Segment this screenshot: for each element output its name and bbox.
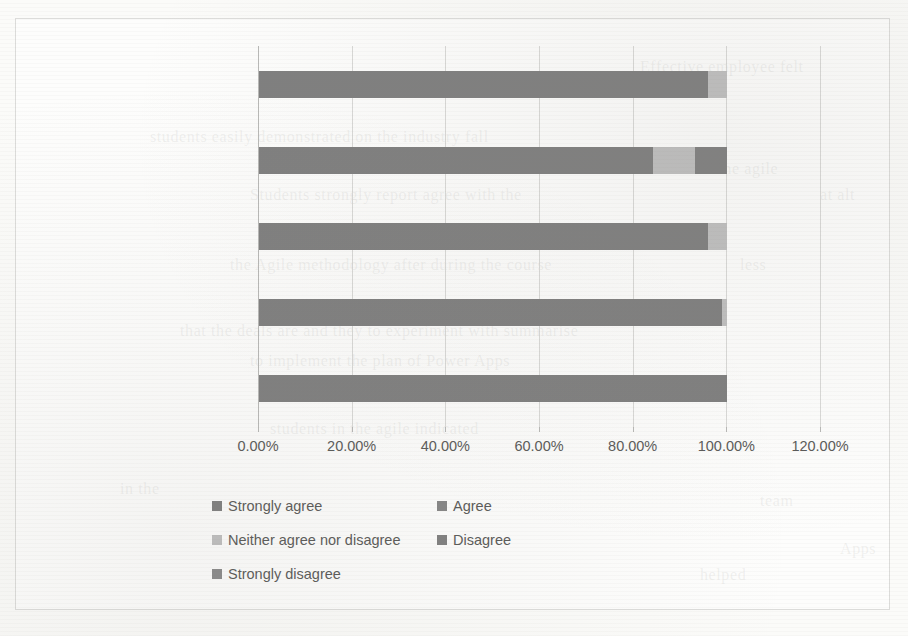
bar-segment[interactable] [259, 375, 727, 402]
legend-swatch-icon [212, 569, 222, 579]
bar-row[interactable] [259, 223, 727, 250]
bar-segment[interactable] [708, 223, 728, 250]
axis-tick [726, 427, 727, 432]
tick-label: 0.00% [237, 438, 278, 454]
legend-row: Strongly disagree [212, 557, 712, 591]
tick-label: 40.00% [421, 438, 470, 454]
legend-label: Disagree [453, 533, 511, 548]
bar-segment[interactable] [708, 71, 728, 98]
legend-item[interactable]: Disagree [437, 533, 511, 548]
plot-area [258, 46, 820, 427]
axis-tick [352, 427, 353, 432]
chart-frame: Effective employeeHarder to learnPower A… [15, 18, 890, 610]
tick-label: 120.00% [791, 438, 848, 454]
axis-tick [445, 427, 446, 432]
bar-segment[interactable] [653, 147, 695, 174]
bar-segment[interactable] [259, 223, 708, 250]
legend-swatch-icon [212, 501, 222, 511]
bar-segment[interactable] [259, 71, 708, 98]
axis-tick [633, 427, 634, 432]
bar-row[interactable] [259, 71, 727, 98]
legend-item[interactable]: Neither agree nor disagree [212, 533, 437, 548]
bar-row[interactable] [259, 375, 727, 402]
bar-segment[interactable] [259, 147, 653, 174]
bar-segment[interactable] [695, 147, 727, 174]
legend-swatch-icon [437, 535, 447, 545]
legend-row: Strongly agreeAgree [212, 489, 712, 523]
bar-segment[interactable] [259, 299, 722, 326]
legend-label: Strongly agree [228, 499, 322, 514]
bar-row[interactable] [259, 147, 727, 174]
legend-label: Agree [453, 499, 492, 514]
legend-item[interactable]: Strongly agree [212, 499, 437, 514]
bar-row[interactable] [259, 299, 727, 326]
axis-tick [258, 427, 259, 432]
axis-tick [820, 427, 821, 432]
chart-legend[interactable]: Strongly agreeAgreeNeither agree nor dis… [212, 489, 712, 591]
legend-swatch-icon [437, 501, 447, 511]
legend-row: Neither agree nor disagreeDisagree [212, 523, 712, 557]
legend-item[interactable]: Strongly disagree [212, 567, 437, 582]
legend-item[interactable]: Agree [437, 499, 492, 514]
legend-label: Neither agree nor disagree [228, 533, 401, 548]
gridline [820, 46, 821, 427]
tick-label: 20.00% [327, 438, 376, 454]
tick-label: 100.00% [698, 438, 755, 454]
legend-swatch-icon [212, 535, 222, 545]
axis-tick [539, 427, 540, 432]
bar-segment[interactable] [722, 299, 727, 326]
legend-label: Strongly disagree [228, 567, 341, 582]
tick-label: 60.00% [514, 438, 563, 454]
tick-label: 80.00% [608, 438, 657, 454]
